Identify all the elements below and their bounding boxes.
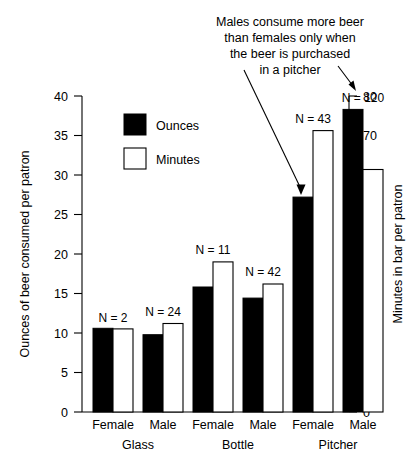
n-label-bottle-male: N = 42 (245, 265, 281, 279)
annotation-line-1: Males consume more beer (216, 15, 364, 29)
left-tick-5: 5 (61, 366, 68, 380)
cat-label-pitcher-male: Male (349, 418, 376, 432)
right-tick-70: 70 (363, 129, 377, 143)
annotation-arrow-to-pitcher-female (244, 70, 306, 195)
bar-group-glass-male: N = 24 (143, 305, 183, 412)
legend-swatch-ounces (124, 114, 146, 135)
n-label-pitcher-male: N = 120 (342, 91, 385, 105)
bar-group-pitcher-female: N = 43 (293, 112, 333, 412)
annotation-line-2: than females only when (224, 31, 355, 45)
left-axis: 40 35 30 25 20 15 10 5 0 (54, 90, 82, 420)
cat-label-glass-female: Female (92, 418, 134, 432)
group-label-pitcher: Pitcher (319, 438, 358, 452)
bar-ounces-bottle-male (243, 298, 263, 412)
group-labels: Glass Bottle Pitcher (122, 438, 357, 452)
bar-ounces-glass-female (93, 328, 113, 412)
left-tick-30: 30 (54, 169, 68, 183)
annotation-arrow-to-pitcher-male (338, 66, 356, 91)
bar-minutes-glass-male (163, 324, 183, 413)
bar-group-bottle-female: N = 11 (193, 243, 233, 412)
n-label-glass-female: N = 2 (98, 311, 127, 325)
annotation-line-3: the beer is purchased (230, 47, 350, 61)
right-axis-title: Minutes in bar per patron (391, 184, 405, 323)
chart-legend: Ounces Minutes (124, 114, 200, 169)
left-axis-title: Ounces of beer consumed per patron (18, 150, 32, 357)
left-tick-0: 0 (61, 406, 68, 420)
bar-ounces-glass-male (143, 335, 163, 412)
category-labels: Female Male Female Male Female Male (92, 418, 376, 432)
cat-label-pitcher-female: Female (292, 418, 334, 432)
left-tick-10: 10 (54, 327, 68, 341)
left-tick-15: 15 (54, 287, 68, 301)
annotation-line-4: in a pitcher (259, 63, 320, 77)
bar-minutes-glass-female (113, 329, 133, 412)
chart-canvas: 40 35 30 25 20 15 10 5 0 80 70 60 50 40 (0, 0, 418, 471)
left-tick-25: 25 (54, 208, 68, 222)
bar-minutes-bottle-female (213, 262, 233, 412)
bar-group-bottle-male: N = 42 (243, 265, 283, 412)
bar-ounces-pitcher-female (293, 197, 313, 412)
legend-swatch-minutes (124, 148, 146, 169)
n-label-pitcher-female: N = 43 (295, 112, 331, 126)
cat-label-bottle-female: Female (192, 418, 234, 432)
annotation-callout: Males consume more beer than females onl… (216, 15, 364, 195)
bar-ounces-pitcher-male (343, 109, 363, 412)
legend-label-ounces: Ounces (156, 119, 199, 133)
beer-consumption-chart: 40 35 30 25 20 15 10 5 0 80 70 60 50 40 (0, 0, 418, 471)
group-label-bottle: Bottle (222, 438, 254, 452)
cat-label-bottle-male: Male (249, 418, 276, 432)
bar-minutes-pitcher-female (313, 131, 333, 412)
legend-label-minutes: Minutes (156, 153, 200, 167)
bar-group-pitcher-male: N = 120 (342, 91, 385, 412)
left-tick-20: 20 (54, 248, 68, 262)
bar-minutes-bottle-male (263, 284, 283, 412)
left-tick-40: 40 (54, 90, 68, 104)
group-label-glass: Glass (122, 438, 154, 452)
cat-label-glass-male: Male (149, 418, 176, 432)
n-label-glass-male: N = 24 (145, 305, 181, 319)
bar-minutes-pitcher-male (363, 170, 383, 413)
left-tick-35: 35 (54, 129, 68, 143)
bar-group-glass-female: N = 2 (93, 311, 133, 412)
n-label-bottle-female: N = 11 (196, 243, 231, 257)
bar-ounces-bottle-female (193, 287, 213, 412)
